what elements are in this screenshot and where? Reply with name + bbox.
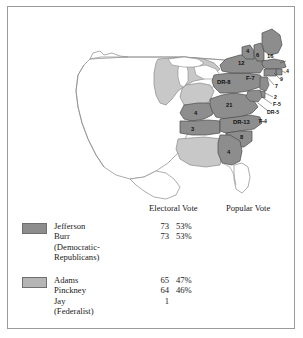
vote-count: 64 xyxy=(149,285,169,295)
electoral-votes-federalist: 65 47% 64 46% 1 xyxy=(149,275,221,306)
label-tennessee: 3 xyxy=(191,127,194,133)
label-vermont: 4 xyxy=(246,49,249,55)
vote-percent: 46% xyxy=(176,285,192,295)
label-new-jersey: 7 xyxy=(275,84,278,89)
florida-outline xyxy=(234,163,250,193)
label-delaware: 2 xyxy=(274,95,277,100)
label-north-carolina-dr: DR-13 xyxy=(233,120,250,126)
label-kentucky: 4 xyxy=(194,111,197,117)
label-pennsylvania-dr: DR-8 xyxy=(217,80,231,86)
vote-row: 1 xyxy=(149,296,221,306)
swatch-federalist xyxy=(22,277,47,288)
label-georgia: 4 xyxy=(227,150,230,156)
candidate-name: Adams xyxy=(54,275,144,285)
state-massachusetts xyxy=(262,59,286,69)
map-shapes xyxy=(76,29,286,199)
candidate-name: Pinckney xyxy=(54,285,144,295)
us-map-svg xyxy=(8,7,296,207)
electoral-votes-democratic-republicans: 73 53% 73 53% xyxy=(149,221,221,242)
candidate-name: Jefferson xyxy=(54,221,144,231)
candidate-names-federalist: Adams Pinckney Jay (Federalist) xyxy=(54,275,144,317)
state-rhode-island xyxy=(276,69,282,75)
state-connecticut xyxy=(264,69,276,76)
swatch-democratic-republicans xyxy=(22,223,47,234)
label-south-carolina: 8 xyxy=(240,135,243,141)
header-electoral-vote: Electoral Vote xyxy=(149,203,198,213)
label-rhode-island: 4 xyxy=(286,69,289,74)
label-maryland-dr: DR-5 xyxy=(267,110,279,115)
label-new-hampshire: 6 xyxy=(256,53,259,59)
label-new-york: 12 xyxy=(238,61,244,67)
label-pennsylvania-federalist: F-7 xyxy=(246,76,255,82)
vote-row: 65 47% xyxy=(149,275,221,285)
party-name-line: Republicans) xyxy=(54,252,144,262)
party-name-line: (Federalist) xyxy=(54,306,144,316)
map-figure-frame: 16 6 4 12 4 9 DR-8 F-7 7 2 F-5 DR-5 21 D… xyxy=(7,6,295,329)
candidate-name: Jay xyxy=(54,296,144,306)
vote-row: 73 53% xyxy=(149,231,221,241)
label-virginia: 21 xyxy=(226,103,232,109)
vote-row: 64 46% xyxy=(149,285,221,295)
candidate-names-democratic-republicans: Jefferson Burr (Democratic- Republicans) xyxy=(54,221,144,263)
label-massachusetts: 16 xyxy=(267,54,273,60)
header-popular-vote: Popular Vote xyxy=(226,203,270,213)
vote-count: 73 xyxy=(149,231,169,241)
party-name-line: (Democratic- xyxy=(54,242,144,252)
state-maine xyxy=(262,29,282,55)
vote-percent: 53% xyxy=(176,221,192,231)
vote-percent: 53% xyxy=(176,231,192,241)
candidate-name: Burr xyxy=(54,231,144,241)
vote-percent: 47% xyxy=(176,275,192,285)
state-new-jersey xyxy=(260,77,269,91)
vote-count: 1 xyxy=(149,296,169,306)
label-connecticut: 9 xyxy=(280,77,283,82)
vote-row: 73 53% xyxy=(149,221,221,231)
legend-column-headers: Electoral Vote Popular Vote xyxy=(8,203,296,217)
electoral-map: 16 6 4 12 4 9 DR-8 F-7 7 2 F-5 DR-5 21 D… xyxy=(8,7,296,207)
election-results-legend: Electoral Vote Popular Vote Jefferson Bu… xyxy=(8,203,296,329)
mississippi-territory xyxy=(176,137,222,167)
vote-count: 73 xyxy=(149,221,169,231)
label-north-carolina-federalist: F-4 xyxy=(259,119,267,124)
state-tennessee xyxy=(180,120,220,135)
vote-count: 65 xyxy=(149,275,169,285)
label-maryland-federalist: F-5 xyxy=(273,102,281,107)
